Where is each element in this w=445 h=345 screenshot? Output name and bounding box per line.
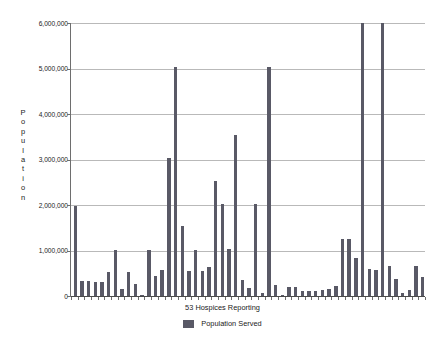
y-axis-tick-mark (67, 205, 71, 206)
x-axis-tick-mark (205, 297, 206, 300)
bar (154, 276, 157, 296)
bar (267, 67, 270, 296)
x-axis-tick-mark (251, 297, 252, 300)
bar (421, 277, 424, 296)
x-axis-tick-mark (218, 297, 219, 300)
bar (254, 204, 257, 296)
x-axis-tick-mark (398, 297, 399, 300)
bar (227, 249, 230, 296)
bar (221, 204, 224, 296)
y-axis-tick-labels: 01,000,0002,000,0003,000,0004,000,0005,0… (28, 0, 68, 345)
x-axis-tick-mark (378, 297, 379, 300)
y-axis-tick-mark (67, 23, 71, 24)
x-axis-tick-mark (191, 297, 192, 300)
x-axis-tick-mark (138, 297, 139, 300)
bar (214, 181, 217, 296)
bar (394, 279, 397, 296)
bar (187, 271, 190, 296)
x-axis-tick-mark (245, 297, 246, 300)
bar (354, 258, 357, 296)
bar (414, 266, 417, 296)
bar (107, 272, 110, 296)
x-axis-tick-mark (258, 297, 259, 300)
x-axis-tick-mark (298, 297, 299, 300)
x-axis-tick-mark (365, 297, 366, 300)
y-axis-tick-mark (67, 114, 71, 115)
y-axis-tick-label: 3,000,000 (28, 156, 68, 163)
bar (347, 239, 350, 296)
x-axis-tick-mark (345, 297, 346, 300)
x-axis-tick-mark (111, 297, 112, 300)
bar (127, 272, 130, 296)
x-axis-tick-mark (385, 297, 386, 300)
x-axis-tick-mark (392, 297, 393, 300)
bar (74, 206, 77, 296)
bar (114, 250, 117, 296)
x-axis-tick-mark (198, 297, 199, 300)
y-axis-tick-label: 0 (28, 293, 68, 300)
y-axis-tick-label: 6,000,000 (28, 20, 68, 27)
x-axis-tick-mark (118, 297, 119, 300)
x-axis-tick-mark (165, 297, 166, 300)
bar (368, 269, 371, 296)
x-axis-tick-mark (104, 297, 105, 300)
x-axis-tick-mark (178, 297, 179, 300)
bar (94, 282, 97, 296)
bar (388, 266, 391, 296)
x-axis-tick-mark (185, 297, 186, 300)
bar (147, 250, 150, 296)
bar (134, 284, 137, 296)
x-axis-tick-mark (418, 297, 419, 300)
y-axis-tick-label: 1,000,000 (28, 247, 68, 254)
bar (194, 250, 197, 296)
x-axis-tick-mark (372, 297, 373, 300)
x-axis-title: 53 Hospices Reporting (0, 303, 445, 312)
x-axis-tick-mark (291, 297, 292, 300)
x-axis-tick-mark (98, 297, 99, 300)
legend-swatch-population-served (183, 320, 194, 328)
legend-label-population-served: Population Served (201, 319, 261, 328)
bar (80, 281, 83, 296)
bar (174, 67, 177, 296)
x-axis-tick-mark (231, 297, 232, 300)
bar (274, 285, 277, 296)
x-axis-tick-mark (225, 297, 226, 300)
y-axis-tick-label: 5,000,000 (28, 65, 68, 72)
bar (327, 289, 330, 296)
x-axis-tick-mark (78, 297, 79, 300)
bar (361, 23, 364, 296)
bar (207, 267, 210, 296)
x-axis-tick-mark (91, 297, 92, 300)
x-axis-tick-mark (271, 297, 272, 300)
x-axis-tick-mark (211, 297, 212, 300)
y-axis-tick-mark (67, 69, 71, 70)
x-axis-tick-mark (84, 297, 85, 300)
x-axis-tick-mark (158, 297, 159, 300)
x-axis-tick-mark (171, 297, 172, 300)
x-axis-tick-mark (151, 297, 152, 300)
bar (120, 289, 123, 296)
bar (241, 280, 244, 296)
bar (160, 270, 163, 296)
bar (294, 287, 297, 296)
x-axis-tick-mark (405, 297, 406, 300)
bar (341, 239, 344, 296)
x-axis-tick-mark (124, 297, 125, 300)
x-axis-tick-mark (331, 297, 332, 300)
y-axis-tick-label: 4,000,000 (28, 111, 68, 118)
x-axis-tick-mark (352, 297, 353, 300)
bar (201, 271, 204, 296)
bar (334, 286, 337, 296)
x-axis-tick-mark (238, 297, 239, 300)
x-axis-tick-mark (318, 297, 319, 300)
x-axis-tick-mark (358, 297, 359, 300)
x-axis-tick-mark (425, 297, 426, 300)
bar (87, 281, 90, 296)
x-axis-tick-mark (311, 297, 312, 300)
y-axis-tick-mark (67, 251, 71, 252)
bar (247, 288, 250, 296)
bar (381, 23, 384, 296)
x-axis-tick-mark (285, 297, 286, 300)
bar (167, 158, 170, 296)
x-axis-tick-mark (305, 297, 306, 300)
